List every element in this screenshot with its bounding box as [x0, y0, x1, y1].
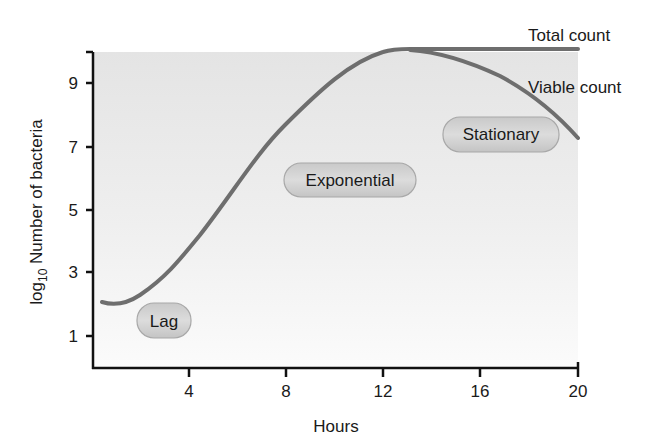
y-tick-7: 7: [69, 138, 78, 157]
growth-curve-chart: 9 7 5 3 1 4 8 12 16 20 Hours log10 Numbe…: [0, 0, 664, 447]
y-tick-1: 1: [69, 327, 78, 346]
y-tick-labels: 9 7 5 3 1: [69, 74, 78, 346]
x-tick-4: 4: [184, 382, 193, 401]
phase-exponential: Exponential: [284, 163, 416, 197]
x-tick-20: 20: [569, 382, 588, 401]
y-axis-title: log10 Number of bacteria: [27, 119, 50, 305]
phase-stationary: Stationary: [443, 117, 559, 152]
viable-count-label: Viable count: [528, 78, 622, 97]
phase-lag: Lag: [137, 303, 191, 338]
y-tick-9: 9: [69, 74, 78, 93]
x-tick-8: 8: [281, 382, 290, 401]
y-tick-5: 5: [69, 201, 78, 220]
x-tick-16: 16: [471, 382, 490, 401]
y-tick-3: 3: [69, 263, 78, 282]
stationary-label: Stationary: [463, 125, 540, 144]
total-count-label: Total count: [528, 26, 610, 45]
exponential-label: Exponential: [306, 171, 395, 190]
x-tick-12: 12: [374, 382, 393, 401]
x-axis-title: Hours: [313, 417, 358, 436]
x-tick-labels: 4 8 12 16 20: [184, 382, 587, 401]
lag-label: Lag: [150, 312, 178, 331]
